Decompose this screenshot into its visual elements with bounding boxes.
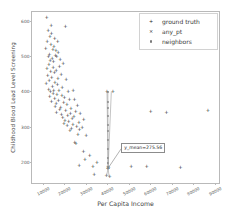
y-axis-tick-label: 500 [21,54,29,59]
x-axis-tick-label: 20000 [57,186,71,197]
x-axis-tick-mark [193,183,194,185]
x-axis-tick-mark [150,183,151,185]
x-axis-tick-mark [64,183,65,185]
x-axis-tick-label: 90000 [208,186,222,197]
x-axis-tick-mark [43,183,44,185]
x-axis-tick-label: 60000 [143,186,157,197]
x-axis-tick-label: 70000 [165,186,179,197]
scatter-plot-figure: Childhood Blood Lead Level Screening y_m… [0,0,228,213]
y-axis-tick-label: 200 [21,159,29,164]
x-axis-tick-label: 80000 [186,186,200,197]
x-axis-tick-label: 10000 [36,186,50,197]
x-axis-tick-mark [172,183,173,185]
annotation-arrow [32,12,219,183]
y-axis-tick-label: 300 [21,124,29,129]
y-axis-title: Childhood Blood Lead Level Screening [9,11,18,184]
plot-area: y_mean=275.56 20030040050060010000200003… [31,11,220,184]
x-axis-tick-label: 40000 [100,186,114,197]
x-axis-title: Per Capita Income [31,200,220,207]
x-axis-tick-mark [107,183,108,185]
y-axis-tick-label: 400 [21,89,29,94]
x-axis-tick-label: 30000 [79,186,93,197]
x-axis-tick-label: 50000 [122,186,136,197]
y-mean-annotation: y_mean=275.56 [121,143,165,153]
x-axis-tick-mark [215,183,216,185]
x-axis-tick-mark [86,183,87,185]
x-axis-tick-mark [129,183,130,185]
y-axis-tick-label: 600 [21,18,29,23]
